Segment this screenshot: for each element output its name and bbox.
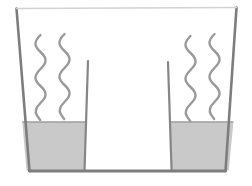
outer-vessel-rim <box>17 8 237 9</box>
vessel-evaporation-diagram <box>0 0 252 186</box>
inner-vessel-interior <box>84 61 172 172</box>
diagram-canvas: Evaporation from liquid in a partitioned… <box>0 0 252 186</box>
right-liquid-region <box>171 122 234 170</box>
left-liquid-region <box>22 122 85 170</box>
